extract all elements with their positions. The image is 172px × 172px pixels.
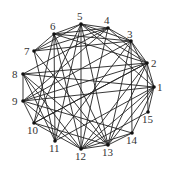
node-label-4: 4 xyxy=(104,14,110,26)
edge-5-13 xyxy=(81,24,108,145)
node-label-11: 11 xyxy=(49,142,60,154)
node-label-9: 9 xyxy=(12,95,18,107)
node-label-1: 1 xyxy=(157,81,163,93)
node-2 xyxy=(145,61,149,65)
edge-3-14 xyxy=(131,41,132,133)
node-8 xyxy=(21,72,25,76)
edge-11-1 xyxy=(55,87,154,141)
node-6 xyxy=(52,32,56,36)
edge-9-3 xyxy=(23,41,131,101)
node-label-12: 12 xyxy=(75,150,86,162)
node-label-6: 6 xyxy=(50,20,56,32)
node-label-14: 14 xyxy=(126,134,138,146)
node-label-5: 5 xyxy=(77,10,83,22)
edge-2-13 xyxy=(108,63,147,145)
node-label-13: 13 xyxy=(102,146,114,158)
node-label-15: 15 xyxy=(142,113,154,125)
node-label-8: 8 xyxy=(12,68,18,80)
graph-diagram: 123456789101112131415 xyxy=(0,0,172,172)
edge-2-3 xyxy=(131,41,147,63)
node-label-7: 7 xyxy=(24,45,30,57)
edges-layer xyxy=(23,24,154,149)
node-label-3: 3 xyxy=(127,28,133,40)
node-label-2: 2 xyxy=(151,57,157,69)
edge-2-15 xyxy=(147,63,148,112)
edge-9-10 xyxy=(23,101,34,123)
node-4 xyxy=(106,26,110,30)
edge-5-10 xyxy=(34,24,81,123)
node-5 xyxy=(79,22,83,26)
node-7 xyxy=(32,49,36,53)
edge-6-11 xyxy=(54,34,55,141)
edge-13-10 xyxy=(34,123,108,145)
node-label-10: 10 xyxy=(27,124,39,136)
node-9 xyxy=(21,99,25,103)
node-1 xyxy=(152,85,156,89)
